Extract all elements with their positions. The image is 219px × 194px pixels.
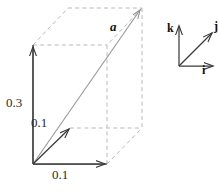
vector-a-arrow — [33, 10, 140, 164]
vector-components-figure: 0.3 0.1 0.1 a k j i — [0, 0, 219, 194]
basis-j-arrow — [179, 33, 212, 66]
vector-a-label: a — [110, 20, 117, 33]
basis-i-label: i — [202, 64, 205, 76]
component-j-arrow — [33, 129, 69, 164]
width-dimension-label: 0.1 — [52, 168, 68, 181]
basis-k-label: k — [167, 22, 174, 34]
basis-triad — [179, 26, 213, 66]
depth-dimension-label: 0.1 — [31, 116, 47, 129]
component-arrows — [33, 47, 105, 164]
height-dimension-label: 0.3 — [6, 96, 22, 109]
basis-j-label: j — [214, 20, 218, 32]
edge-bottom-right-receding — [107, 128, 142, 164]
edge-top-left-receding — [33, 8, 68, 45]
box-solid-edges — [33, 45, 107, 164]
